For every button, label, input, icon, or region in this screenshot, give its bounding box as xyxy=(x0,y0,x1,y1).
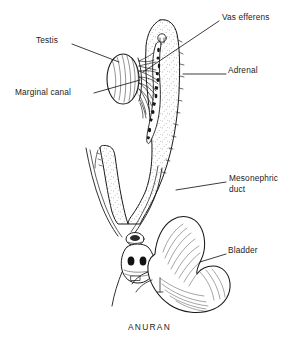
label-mesonephric-duct-line1: Mesonephric xyxy=(229,173,278,183)
bladder-leader xyxy=(200,254,226,262)
label-marginal-canal: Marginal canal xyxy=(15,87,71,98)
figure-caption: ANURAN xyxy=(0,322,299,332)
label-bladder: Bladder xyxy=(228,245,258,256)
left-kidney-lobe xyxy=(95,145,128,224)
testis-organ xyxy=(107,54,139,104)
anatomy-figure: Testis Vas efferens Adrenal Marginal can… xyxy=(0,0,299,345)
mesonephric-duct-leader xyxy=(176,182,226,190)
label-testis: Testis xyxy=(36,35,58,46)
label-vas-efferens: Vas efferens xyxy=(222,12,270,23)
testis-leader xyxy=(72,44,119,62)
label-mesonephric-duct: Mesonephric duct xyxy=(229,173,291,194)
label-mesonephric-duct-line2: duct xyxy=(229,184,245,194)
label-adrenal: Adrenal xyxy=(228,65,258,76)
